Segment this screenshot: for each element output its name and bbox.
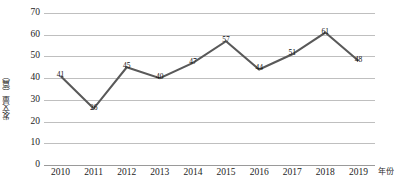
x-tick-label: 2014 [183, 168, 202, 178]
x-tick-label: 2018 [316, 168, 335, 178]
y-axis-tick-labels: 010203040506070 [14, 0, 40, 189]
data-point-label: 47 [189, 58, 197, 66]
plot-area: 41264540475744516148 [44, 13, 375, 165]
data-point-label: 57 [222, 36, 230, 44]
data-point-label: 26 [90, 104, 98, 112]
data-point-label: 44 [255, 65, 263, 73]
x-tick-label: 2011 [84, 168, 103, 178]
y-axis-title: 发文量（篇） [0, 46, 13, 146]
x-tick-label: 2017 [283, 168, 302, 178]
y-tick-label: 40 [16, 73, 40, 83]
data-point-label: 61 [322, 28, 330, 36]
y-tick-label: 0 [16, 160, 40, 170]
y-tick-label: 60 [16, 30, 40, 40]
y-tick-label: 10 [16, 138, 40, 148]
series-line-developments [61, 33, 359, 109]
x-tick-label: 2010 [51, 168, 70, 178]
data-point-label: 45 [123, 63, 131, 71]
y-tick-label: 50 [16, 51, 40, 61]
y-tick-label: 70 [16, 8, 40, 18]
data-point-label: 41 [57, 71, 65, 79]
x-axis-tick-labels: 2010201120122013201420152016201720182019 [44, 168, 375, 184]
x-tick-label: 2013 [150, 168, 169, 178]
y-tick-label: 20 [16, 117, 40, 127]
data-point-label: 40 [156, 73, 164, 81]
x-axis-line [44, 165, 375, 166]
x-tick-label: 2019 [349, 168, 368, 178]
x-tick-label: 2015 [217, 168, 236, 178]
x-tick-label: 2012 [117, 168, 136, 178]
x-axis-title: 年份 [378, 168, 394, 176]
y-axis-title-text: 发文量（篇） [1, 72, 12, 120]
y-tick-label: 30 [16, 95, 40, 105]
data-point-label: 51 [289, 50, 297, 58]
data-point-label: 48 [355, 56, 363, 64]
x-tick-label: 2016 [250, 168, 269, 178]
line-chart: 发文量（篇） 010203040506070 41264540475744516… [0, 0, 406, 189]
series-line-layer [44, 13, 375, 165]
